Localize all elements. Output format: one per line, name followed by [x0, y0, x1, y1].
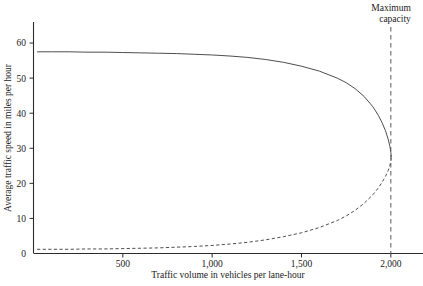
maximum-capacity-label-line2: capacity [379, 14, 411, 24]
y-axis-title: Average traffic speed in miles per hour [3, 63, 13, 212]
x-tick-group: 5001,0001,5002,000 [116, 254, 402, 270]
curve-congested-branch [37, 157, 391, 249]
x-axis: 5001,0001,5002,000 [34, 254, 423, 270]
y-tick-label: 0 [21, 249, 26, 259]
y-tick-label: 50 [17, 74, 27, 84]
curve-group [37, 52, 391, 249]
y-tick-group: 0102030405060 [17, 38, 34, 258]
x-tick-label: 1,500 [291, 259, 313, 269]
y-tick-label: 30 [17, 144, 27, 154]
x-tick-label: 2,000 [380, 259, 402, 269]
annotation-group: Maximumcapacity [371, 3, 411, 254]
y-tick-label: 60 [17, 38, 27, 48]
traffic-speed-volume-chart: 0102030405060 5001,0001,5002,000 Maximum… [0, 0, 423, 286]
maximum-capacity-label-line1: Maximum [371, 3, 411, 13]
y-tick-label: 20 [17, 179, 27, 189]
chart-canvas: 0102030405060 5001,0001,5002,000 Maximum… [0, 0, 423, 286]
y-tick-label: 10 [17, 214, 27, 224]
x-axis-title: Traffic volume in vehicles per lane-hour [151, 270, 305, 280]
y-tick-label: 40 [17, 109, 27, 119]
curve-free-flow-branch [37, 52, 391, 157]
y-axis: 0102030405060 [17, 22, 34, 259]
x-tick-label: 1,000 [201, 259, 223, 269]
x-tick-label: 500 [116, 259, 131, 269]
